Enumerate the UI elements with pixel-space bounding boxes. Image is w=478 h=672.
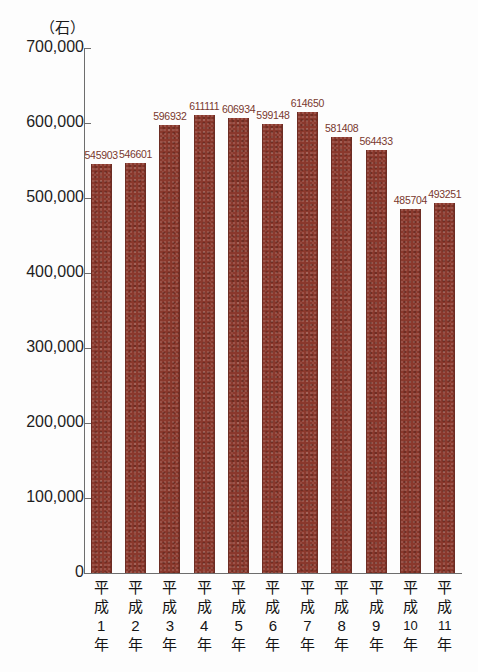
x-axis-category-label: 平成8年 [325, 578, 359, 654]
y-axis-tick-label: 500,000 [8, 188, 84, 206]
bar-value-label: 581408 [325, 122, 358, 134]
bar [194, 115, 215, 573]
bar-group: 611111 [187, 48, 221, 573]
bar-value-label: 485704 [394, 194, 427, 206]
bar [91, 164, 112, 573]
bar-value-label: 611111 [189, 100, 219, 112]
bar-value-label: 545903 [85, 149, 118, 161]
bar-value-label: 493251 [428, 188, 461, 200]
bar-value-label: 599148 [256, 109, 289, 121]
x-axis-category-label: 平成1年 [84, 578, 118, 654]
bar-value-label: 614650 [291, 97, 324, 109]
bar-group: 614650 [290, 48, 324, 573]
y-axis-tick-label: 400,000 [8, 263, 84, 281]
x-axis-category-label: 平成10年 [393, 578, 427, 654]
bar-group: 493251 [428, 48, 462, 573]
bar-group: 606934 [221, 48, 255, 573]
bar-chart: （石） 700,000600,000500,000400,000300,0002… [0, 0, 478, 672]
bar [228, 118, 249, 573]
bar-group: 545903 [84, 48, 118, 573]
x-axis-line [84, 573, 462, 574]
x-axis-labels: 平成1年平成2年平成3年平成4年平成5年平成6年平成7年平成8年平成9年平成10… [84, 578, 462, 672]
bar [434, 203, 455, 573]
y-axis-tick-label: 0 [8, 563, 84, 581]
bar-value-label: 606934 [222, 103, 255, 115]
bar-value-label: 564433 [359, 135, 392, 147]
bar-group: 546601 [118, 48, 152, 573]
bar [262, 124, 283, 573]
x-axis-category-label: 平成11年 [428, 578, 462, 654]
bar-group: 485704 [393, 48, 427, 573]
plot-area: 5459035466015969326111116069345991486146… [84, 48, 462, 573]
x-axis-category-label: 平成7年 [290, 578, 324, 654]
x-axis-category-label: 平成9年 [359, 578, 393, 654]
bar-group: 596932 [153, 48, 187, 573]
bar [125, 163, 146, 573]
x-axis-category-label: 平成3年 [153, 578, 187, 654]
bar-value-label: 546601 [119, 148, 152, 160]
y-axis-tick-label: 700,000 [8, 38, 84, 56]
x-axis-category-label: 平成6年 [256, 578, 290, 654]
y-axis-tick-label: 300,000 [8, 338, 84, 356]
bar-group: 599148 [256, 48, 290, 573]
y-axis-tick-label: 600,000 [8, 113, 84, 131]
bar-group: 564433 [359, 48, 393, 573]
bar [297, 112, 318, 573]
bar [331, 137, 352, 573]
y-axis-tick-label: 100,000 [8, 488, 84, 506]
x-axis-category-label: 平成2年 [118, 578, 152, 654]
y-axis-tick-label: 200,000 [8, 413, 84, 431]
bar [400, 209, 421, 573]
y-axis-unit-label: （石） [40, 16, 85, 37]
bar-group: 581408 [325, 48, 359, 573]
x-axis-category-label: 平成4年 [187, 578, 221, 654]
bar [159, 125, 180, 573]
bar [366, 150, 387, 573]
bar-value-label: 596932 [153, 110, 186, 122]
x-axis-category-label: 平成5年 [221, 578, 255, 654]
y-axis-tick [84, 573, 91, 574]
